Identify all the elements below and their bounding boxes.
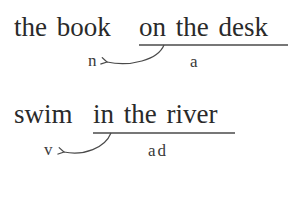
example-2-arrow-icon bbox=[64, 133, 111, 153]
example-1-arrow-icon bbox=[107, 45, 164, 64]
annotation-lines bbox=[0, 0, 303, 199]
